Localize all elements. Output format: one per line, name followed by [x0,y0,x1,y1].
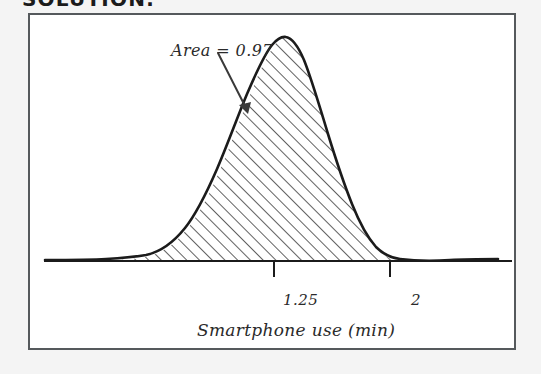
x-tick-label-left: 1.25 [283,291,318,309]
x-axis-caption: Smartphone use (min) [197,320,395,340]
figure-frame: Area = 0.97 1.25 2 Smartphone use (min) [28,13,516,350]
x-tick-label-right: 2 [411,291,421,309]
area-annotation-label: Area = 0.97 [171,41,273,60]
density-curve-chart [30,15,514,348]
page-title: SOLUTION: [22,0,155,11]
figure-page: SOLUTION: [0,0,541,374]
annotation-arrow [218,53,251,114]
shaded-area-region [110,25,400,261]
